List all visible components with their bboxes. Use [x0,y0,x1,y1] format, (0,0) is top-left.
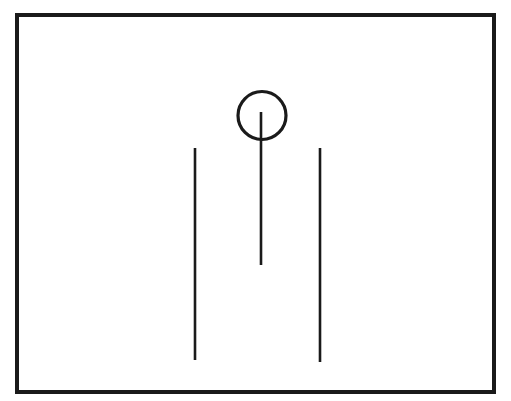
canvas-background [0,0,511,401]
drawing-canvas [0,0,511,401]
line-drawing-figure [0,0,511,401]
